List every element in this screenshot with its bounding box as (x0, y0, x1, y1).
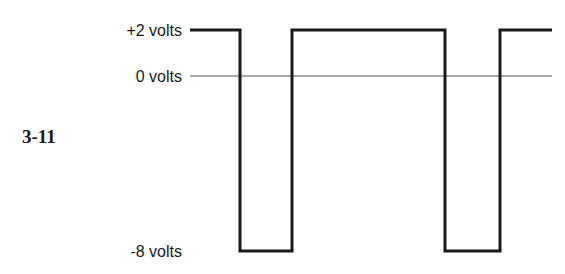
waveform-diagram (0, 0, 565, 274)
square-wave-signal (190, 30, 552, 251)
